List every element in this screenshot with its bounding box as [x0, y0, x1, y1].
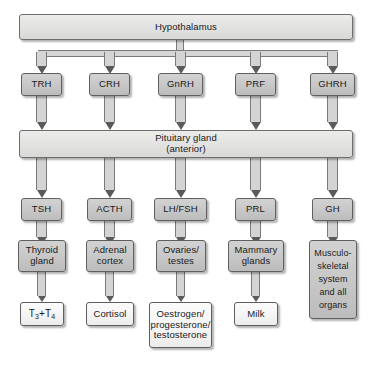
node-releasing-hormone-crh: CRH: [89, 73, 130, 96]
node-releasing-hormone-ghrh: GHRH: [310, 73, 355, 96]
node-releasing-hormone-gnrh: GnRH: [158, 73, 203, 96]
node-tsh-label: TSH: [32, 204, 51, 215]
arrow-adrenal-cortex-to-cortisol: [105, 272, 114, 302]
node-product-t3-t4: T3+T4: [20, 302, 64, 326]
endocrine-axis-diagram: Hypothalamus TRH CRH GnRH PRF GHRH: [0, 0, 371, 365]
arrow-pituitary-to-acth: [104, 158, 115, 198]
arrow-hypothalamus-to-ghrh: [327, 52, 338, 74]
arrow-hypothalamus-to-trh: [36, 52, 47, 74]
node-thyroid-gland-label-line2: gland: [30, 256, 54, 267]
node-prf-label: PRF: [246, 79, 265, 90]
node-ghrh-label: GHRH: [318, 79, 346, 90]
node-trh-label: TRH: [32, 79, 52, 90]
node-musculoskeletal-label-line4: and all: [319, 286, 346, 299]
arrow-ovaries-testes-to-sex-hormones: [176, 272, 185, 302]
node-pituitary-label-line2: (anterior): [166, 144, 206, 155]
node-musculoskeletal-label-line5: organs: [319, 299, 347, 312]
arrow-pituitary-to-tsh: [36, 158, 47, 198]
arrow-prf-to-pituitary: [250, 96, 261, 130]
node-musculoskeletal-label-line2: skeletal: [317, 260, 348, 273]
node-lhfsh-label: LH/FSH: [163, 204, 197, 215]
node-musculoskeletal-label-line3: system: [318, 273, 347, 286]
node-target-organ-musculoskeletal-system: Musculo- skeletal system and all organs: [309, 240, 357, 319]
node-target-organ-adrenal-cortex: Adrenal cortex: [86, 240, 134, 272]
arrow-hypothalamus-to-prf: [250, 52, 261, 74]
arrow-pituitary-to-lhfsh: [175, 158, 186, 198]
node-pituitary-hormone-prl: PRL: [235, 198, 276, 221]
node-pituitary-hormone-tsh: TSH: [21, 198, 62, 221]
arrow-mammary-glands-to-milk: [251, 272, 260, 302]
node-t3-t4-label: T3+T4: [29, 308, 55, 319]
arrow-hypothalamus-to-gnrh: [175, 52, 186, 74]
arrow-gnrh-to-pituitary: [175, 96, 186, 130]
node-releasing-hormone-prf: PRF: [235, 73, 276, 96]
arrow-trh-to-pituitary: [36, 96, 47, 130]
node-ovaries-testes-label-line2: testes: [168, 256, 194, 267]
node-hypothalamus: Hypothalamus: [19, 14, 353, 40]
node-product-sex-hormones: Oestrogen/ progesterone/ testosterone: [149, 302, 212, 348]
arrow-crh-to-pituitary: [104, 96, 115, 130]
hypothalamus-distribution-bus: [38, 50, 338, 57]
arrow-ghrh-to-pituitary: [327, 96, 338, 130]
node-product-milk: Milk: [234, 302, 278, 326]
node-target-organ-thyroid-gland: Thyroid gland: [18, 240, 66, 272]
node-pituitary-hormone-lhfsh: LH/FSH: [154, 198, 207, 221]
arrow-thyroid-gland-to-t3-t4: [37, 272, 46, 302]
node-target-organ-ovaries-testes: Ovaries/ testes: [156, 240, 206, 272]
node-target-organ-mammary-glands: Mammary glands: [228, 240, 284, 272]
node-musculoskeletal-label-line1: Musculo-: [314, 247, 351, 260]
arrow-pituitary-to-gh: [327, 158, 338, 198]
node-releasing-hormone-trh: TRH: [21, 73, 62, 96]
arrow-hypothalamus-to-crh: [104, 52, 115, 74]
node-adrenal-cortex-label-line2: cortex: [97, 256, 123, 267]
node-acth-label: ACTH: [96, 204, 122, 215]
node-product-cortisol: Cortisol: [86, 302, 134, 326]
node-sex-hormones-label-line3: testosterone: [154, 330, 207, 341]
t3-t4-subscript-3: 3: [35, 313, 39, 320]
node-pituitary-gland: Pituitary gland (anterior): [19, 130, 353, 158]
node-gh-label: GH: [325, 204, 339, 215]
node-gnrh-label: GnRH: [167, 79, 194, 90]
t3-t4-subscript-4: 4: [51, 313, 55, 320]
node-pituitary-hormone-gh: GH: [312, 198, 353, 221]
node-cortisol-label: Cortisol: [93, 309, 126, 320]
node-hypothalamus-label: Hypothalamus: [155, 22, 217, 33]
node-mammary-glands-label-line2: glands: [242, 256, 271, 267]
node-prl-label: PRL: [246, 204, 265, 215]
node-pituitary-hormone-acth: ACTH: [87, 198, 132, 221]
node-crh-label: CRH: [99, 79, 120, 90]
node-milk-label: Milk: [247, 309, 264, 320]
arrow-pituitary-to-prl: [250, 158, 261, 198]
